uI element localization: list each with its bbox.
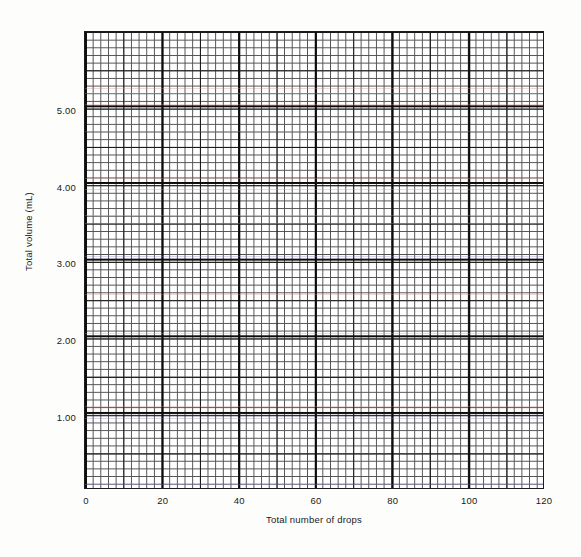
scan-fringe-artifact xyxy=(85,223,543,224)
minor-gridlines xyxy=(85,32,543,488)
x-tick-label: 20 xyxy=(157,495,168,506)
x-tick-label: 60 xyxy=(311,495,322,506)
scan-fringe-artifact xyxy=(85,104,543,105)
plot-area[interactable] xyxy=(84,31,544,489)
scanned-page-background: 5.00 4.00 3.00 2.00 1.00 0 20 40 60 80 1… xyxy=(0,0,581,557)
y-tick-label: 4.00 xyxy=(57,182,76,193)
scan-fringe-artifact xyxy=(85,294,543,295)
y-tick-label: 1.00 xyxy=(57,412,76,423)
x-axis-title: Total number of drops xyxy=(84,514,544,525)
scan-fringe-artifact xyxy=(85,93,543,94)
scan-fringe-artifact xyxy=(85,484,543,485)
scan-fringe-artifact xyxy=(85,215,543,216)
y-tick-label: 5.00 xyxy=(57,105,76,116)
x-tick-label: 100 xyxy=(461,495,477,506)
x-tick-label: 40 xyxy=(234,495,245,506)
scan-fringe-artifact xyxy=(85,88,543,89)
scan-fringe-artifact xyxy=(85,189,543,190)
y-axis-tick-labels: 5.00 4.00 3.00 2.00 1.00 xyxy=(40,31,76,489)
y-axis-title: Total volume (mL) xyxy=(23,142,34,322)
y-tick-label: 2.00 xyxy=(57,335,76,346)
x-tick-label: 0 xyxy=(83,495,88,506)
y-tick-label: 3.00 xyxy=(57,258,76,269)
scan-fringe-artifact xyxy=(85,256,543,257)
scan-fringe-artifact xyxy=(85,418,543,419)
scan-fringe-artifact xyxy=(85,406,543,407)
scan-fringe-artifact xyxy=(85,131,543,132)
scan-fringe-artifact xyxy=(85,178,543,179)
x-tick-label: 80 xyxy=(387,495,398,506)
x-tick-label: 120 xyxy=(536,495,552,506)
x-axis-tick-labels: 0 20 40 60 80 100 120 xyxy=(84,495,544,511)
major-gridlines xyxy=(85,32,543,488)
scan-fringe-artifact xyxy=(85,333,543,334)
decade-gridlines xyxy=(85,32,543,488)
